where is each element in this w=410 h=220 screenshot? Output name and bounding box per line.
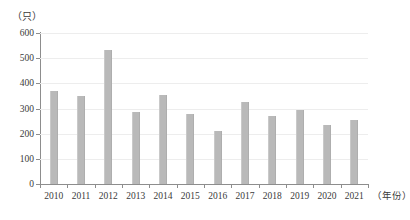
- x-tick-label: 2017: [231, 191, 258, 202]
- gridline: [40, 83, 368, 84]
- plot-area: [40, 33, 368, 184]
- x-tick-mark: [122, 185, 123, 188]
- y-axis-unit-label: （只）: [12, 11, 42, 23]
- x-tick-mark: [259, 185, 260, 188]
- bar: [77, 96, 85, 184]
- y-tick-mark: [36, 58, 40, 59]
- y-tick-mark: [36, 109, 40, 110]
- x-tick-label: 2018: [259, 191, 286, 202]
- bar: [186, 114, 194, 184]
- y-tick-label: 100: [20, 154, 34, 164]
- x-tick-label: 2015: [177, 191, 204, 202]
- x-tick-label: 2011: [67, 191, 94, 202]
- x-tick-mark: [231, 185, 232, 188]
- x-tick-mark: [341, 185, 342, 188]
- x-tick-label: 2019: [286, 191, 313, 202]
- gridline: [40, 33, 368, 34]
- x-tick-label: 2013: [122, 191, 149, 202]
- y-tick-label: 400: [20, 78, 34, 88]
- y-tick-mark: [36, 134, 40, 135]
- x-tick-label: 2020: [313, 191, 340, 202]
- gridline: [40, 109, 368, 110]
- x-tick-label: 2014: [149, 191, 176, 202]
- x-tick-label: 2021: [341, 191, 368, 202]
- x-tick-mark: [204, 185, 205, 188]
- x-tick-label: 2010: [40, 191, 67, 202]
- x-tick-mark: [368, 185, 369, 188]
- y-tick-label: 300: [20, 104, 34, 114]
- x-tick-label: 2016: [204, 191, 231, 202]
- y-tick-mark: [36, 33, 40, 34]
- x-tick-mark: [149, 185, 150, 188]
- bar: [132, 112, 140, 184]
- x-tick-mark: [67, 185, 68, 188]
- bar: [296, 110, 304, 184]
- x-tick-label: 2012: [95, 191, 122, 202]
- x-tick-mark: [313, 185, 314, 188]
- bar: [350, 120, 358, 184]
- gridline: [40, 159, 368, 160]
- y-tick-label: 0: [29, 179, 34, 189]
- y-tick-label: 200: [20, 129, 34, 139]
- bar: [241, 102, 249, 184]
- gridline: [40, 58, 368, 59]
- x-axis-title: （年份）: [372, 191, 410, 202]
- y-tick-label: 600: [20, 28, 34, 38]
- bar: [50, 91, 58, 184]
- y-tick-mark: [36, 159, 40, 160]
- y-tick-mark: [36, 83, 40, 84]
- x-tick-mark: [95, 185, 96, 188]
- x-tick-mark: [177, 185, 178, 188]
- y-tick-label: 500: [20, 53, 34, 63]
- bar: [159, 95, 167, 184]
- x-tick-mark: [286, 185, 287, 188]
- x-tick-mark: [40, 185, 41, 188]
- bar: [214, 131, 222, 184]
- bar: [268, 116, 276, 184]
- gridline: [40, 134, 368, 135]
- bar: [104, 50, 112, 184]
- bar: [323, 125, 331, 184]
